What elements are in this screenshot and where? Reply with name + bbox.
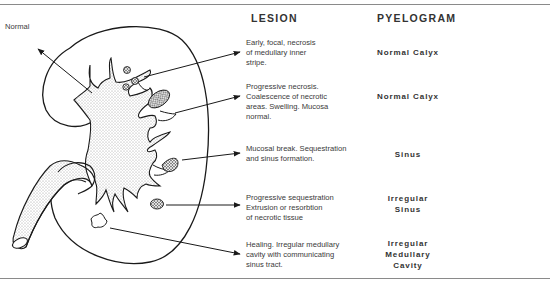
stage3-arrow bbox=[182, 153, 240, 160]
lesion-stage-5: Healing. Irregular medullary cavity with… bbox=[246, 240, 376, 270]
necrosis-nodule bbox=[123, 84, 129, 90]
pyelogram-stage-1: Normal Calyx bbox=[363, 47, 453, 58]
papilla bbox=[138, 82, 150, 90]
pyelogram-header: PYELOGRAM bbox=[377, 12, 456, 24]
sinus-lesion bbox=[162, 158, 178, 171]
stage1-arrow bbox=[144, 52, 240, 77]
pyelogram-stage-5: Irregular Medullary Cavity bbox=[363, 238, 453, 271]
normal-arrow bbox=[38, 49, 92, 93]
lesion-header: LESION bbox=[251, 12, 298, 24]
stage5-arrow bbox=[110, 228, 240, 254]
lesion-stage-4: Progressive sequestration Extrusion or r… bbox=[246, 193, 376, 223]
pyelogram-stage-2: Normal Calyx bbox=[363, 91, 453, 102]
medullary-cavity bbox=[91, 213, 107, 228]
papilla bbox=[158, 111, 176, 121]
pyelogram-stage-3: Sinus bbox=[363, 149, 453, 160]
lesion-stage-2: Progressive necrosis. Coalescence of nec… bbox=[246, 82, 376, 122]
lesion-stage-1: Early, focal, necrosis of medullary inne… bbox=[246, 38, 376, 68]
lesion-stage-3: Mucosal break. Sequestration and sinus f… bbox=[246, 144, 376, 164]
normal-label: Normal bbox=[5, 22, 29, 31]
irregular-sinus-lesion bbox=[151, 199, 164, 209]
necrosis-nodule bbox=[132, 78, 139, 85]
pyelogram-stage-4: Irregular Sinus bbox=[363, 193, 453, 215]
necrosis-nodule bbox=[124, 67, 131, 74]
